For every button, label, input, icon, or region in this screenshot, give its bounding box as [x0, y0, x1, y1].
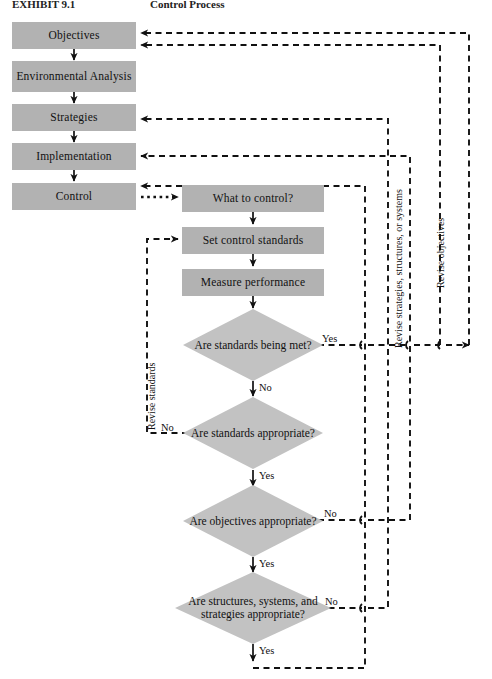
box-strategies[interactable]: Strategies: [12, 104, 136, 131]
decision-standards-appropriate-label: Are standards appropriate?: [187, 427, 319, 440]
edge-label-structures-appropriate-yes: Yes: [259, 645, 274, 656]
box-implementation-label: Implementation: [36, 150, 112, 163]
edge-label-standards-met-no: No: [259, 382, 272, 393]
edge-label-objectives-appropriate-yes: Yes: [259, 558, 274, 569]
box-objectives[interactable]: Objectives: [12, 22, 136, 49]
box-implementation[interactable]: Implementation: [12, 143, 136, 170]
box-objectives-label: Objectives: [48, 29, 99, 42]
box-set-control-standards-label: Set control standards: [203, 234, 304, 247]
edge-label-standards-appropriate-yes: Yes: [259, 470, 274, 481]
box-environmental-analysis-label: Environmental Analysis: [16, 70, 131, 83]
box-what-to-control[interactable]: What to control?: [182, 185, 324, 212]
box-environmental-analysis[interactable]: Environmental Analysis: [12, 61, 136, 92]
flowchart-canvas: EXHIBIT 9.1 Control Process: [0, 0, 492, 679]
feedback-label-revise-objectives: Revise objectives: [435, 218, 446, 288]
box-measure-performance[interactable]: Measure performance: [182, 269, 324, 296]
decision-standards-appropriate[interactable]: Are standards appropriate?: [183, 397, 323, 469]
decision-objectives-appropriate-label: Are objectives appropriate?: [185, 515, 320, 528]
box-measure-performance-label: Measure performance: [201, 276, 305, 289]
edge-label-standards-appropriate-no: No: [161, 422, 174, 433]
box-set-control-standards[interactable]: Set control standards: [182, 227, 324, 254]
decision-standards-being-met-label: Are standards being met?: [190, 339, 315, 352]
edge-label-objectives-appropriate-no: No: [324, 508, 337, 519]
decision-standards-being-met[interactable]: Are standards being met?: [183, 309, 323, 381]
box-control[interactable]: Control: [12, 183, 136, 210]
decision-structures-appropriate-label: Are structures, systems, and strategies …: [175, 595, 331, 621]
box-what-to-control-label: What to control?: [213, 192, 293, 205]
box-strategies-label: Strategies: [50, 111, 97, 124]
feedback-label-revise-standards: Revise standards: [146, 363, 157, 431]
edge-label-standards-met-yes: Yes: [322, 333, 337, 344]
feedback-label-revise-strategies: Revise strategies, structures, or system…: [393, 189, 404, 348]
decision-structures-appropriate[interactable]: Are structures, systems, and strategies …: [175, 572, 331, 644]
wire-jump-2: [406, 341, 408, 349]
decision-objectives-appropriate[interactable]: Are objectives appropriate?: [183, 485, 323, 557]
box-control-label: Control: [56, 190, 93, 203]
